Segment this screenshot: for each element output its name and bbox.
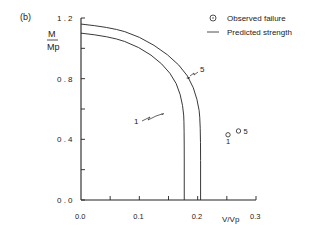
chart: (b) M Mp 0 . 00 . 40 . 81 . 20.00.10.20.…	[0, 0, 310, 241]
observed-point-label: 5	[244, 127, 248, 136]
predicted-curve-5	[81, 24, 201, 200]
curves	[81, 24, 201, 200]
tick-labels: 0 . 00 . 40 . 81 . 20.00.10.20.3	[57, 14, 260, 221]
curve-label-5: 5	[186, 65, 205, 79]
y-axis-label-denominator: Mp	[47, 42, 60, 52]
observed-point-5	[236, 129, 240, 133]
panel-label: (b)	[20, 12, 31, 22]
legend-observed: Observed failure	[227, 14, 286, 23]
axes	[81, 18, 256, 200]
observed-points: 15	[226, 127, 248, 146]
x-tick-label: 0.3	[250, 212, 260, 221]
observed-point-label: 1	[226, 137, 230, 146]
svg-text:1: 1	[134, 117, 139, 126]
y-tick-label: 0 . 4	[57, 135, 73, 144]
legend: Observed failure Predicted strength	[207, 14, 292, 37]
y-tick-label: 0 . 8	[57, 75, 73, 84]
predicted-curve-1	[81, 33, 184, 200]
svg-text:5: 5	[200, 65, 205, 74]
curve-label-1: 1	[134, 113, 164, 126]
legend-predicted: Predicted strength	[227, 28, 292, 37]
y-axis-label-numerator: M	[48, 29, 56, 39]
x-axis-label: V/Vp	[222, 215, 240, 224]
x-tick-label: 0.2	[192, 212, 202, 221]
x-tick-label: 0.0	[75, 212, 85, 221]
y-tick-label: 1 . 2	[57, 14, 73, 23]
y-tick-label: 0 . 0	[57, 196, 73, 205]
x-tick-label: 0.1	[133, 212, 143, 221]
